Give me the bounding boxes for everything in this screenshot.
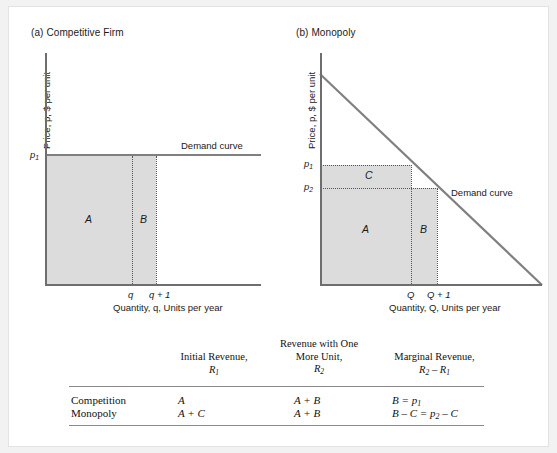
- table-header-revenue-more-unit: Revenue with One More Unit, R2: [264, 338, 374, 378]
- table-row-monopoly-marginal-revenue-rest: – C: [439, 407, 457, 419]
- table-row-competition-marginal-revenue-expr: B = p: [392, 394, 417, 406]
- table-row-monopoly-marginal-revenue: B – C = p2 – C: [392, 407, 458, 423]
- table-row-monopoly-initial-revenue: A + C: [178, 407, 205, 421]
- figure-card: (a) Competitive Firm Price, p, $ per uni…: [8, 6, 549, 447]
- table-header-marginal-revenue-symbol: R2 – R1: [372, 364, 497, 379]
- table-row-competition-label: Competition: [71, 394, 126, 408]
- table-row-monopoly-revenue-more-unit: A + B: [294, 407, 320, 421]
- table-header-initial-revenue: Initial Revenue, R1: [164, 351, 264, 379]
- table-row-competition-initial-revenue: A: [178, 394, 185, 408]
- revenue-table: Initial Revenue, R1 Revenue with One Mor…: [9, 7, 550, 448]
- table-header-revenue-more-unit-line1: Revenue with One: [264, 338, 374, 351]
- table-rule-top: [69, 386, 484, 387]
- table-header-revenue-more-unit-line2: More Unit,: [264, 351, 374, 364]
- table-header-initial-revenue-line1: Initial Revenue,: [164, 351, 264, 364]
- table-header-revenue-more-unit-symbol: R2: [264, 363, 374, 378]
- table-row-monopoly-label: Monopoly: [71, 407, 117, 421]
- table-row-competition-revenue-more-unit: A + B: [294, 394, 320, 408]
- table-header-marginal-revenue: Marginal Revenue, R2 – R1: [372, 351, 497, 379]
- table-header-marginal-revenue-line1: Marginal Revenue,: [372, 351, 497, 364]
- table-header-initial-revenue-symbol: R1: [164, 364, 264, 379]
- table-rule-bottom: [69, 425, 484, 426]
- table-row-monopoly-marginal-revenue-expr: B – C = p: [392, 407, 435, 419]
